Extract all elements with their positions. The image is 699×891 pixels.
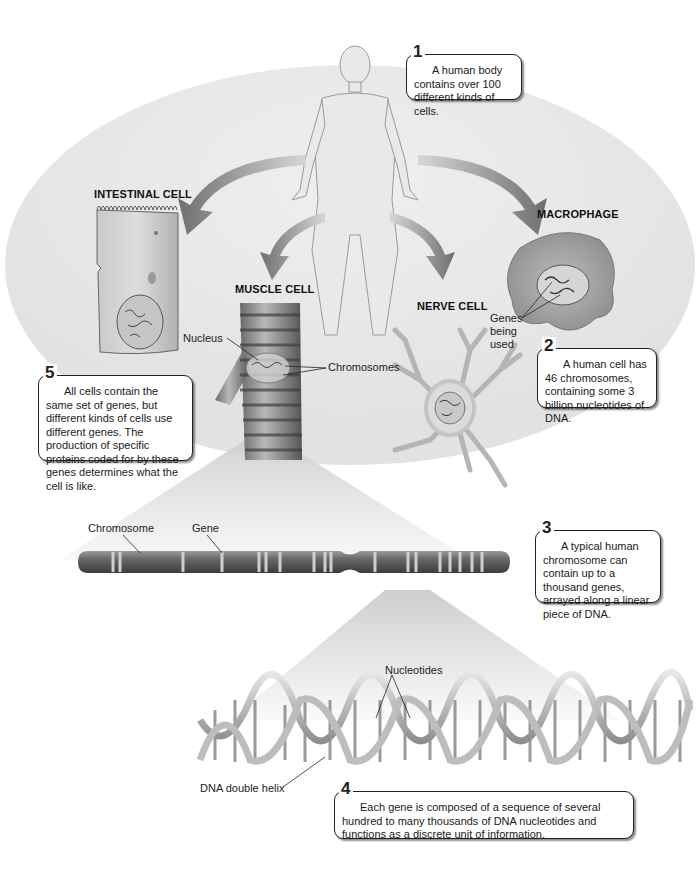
callout-number: 4 xyxy=(339,780,353,797)
genes-being-used-label-2: being xyxy=(490,325,517,338)
callout-2: 2 A human cell has 46 chromosomes, conta… xyxy=(537,348,657,408)
callout-4: 4 Each gene is composed of a sequence of… xyxy=(334,791,634,839)
macrophage-illustration xyxy=(508,233,615,330)
callout-text: A human body contains over 100 different… xyxy=(414,64,514,118)
genes-being-used-label-3: used xyxy=(490,338,514,351)
callout-3: 3 A typical human chromosome can contain… xyxy=(535,530,661,603)
callout-1: 1 A human body contains over 100 differe… xyxy=(406,54,522,100)
intestinal-cell-title: INTESTINAL CELL xyxy=(94,188,192,200)
intestinal-cell-illustration xyxy=(97,206,178,354)
callout-number: 2 xyxy=(542,337,556,354)
nucleus-label: Nucleus xyxy=(183,332,223,345)
nucleotides-label: Nucleotides xyxy=(385,664,442,677)
callout-5: 5 All cells contain the same set of gene… xyxy=(38,375,193,461)
genes-being-used-label-1: Genes xyxy=(490,312,522,325)
callout-text: A human cell has 46 chromosomes, contain… xyxy=(545,358,649,426)
dna-double-helix-label: DNA double helix xyxy=(200,782,284,795)
muscle-cell-title: MUSCLE CELL xyxy=(235,283,314,295)
macrophage-title: MACROPHAGE xyxy=(537,208,619,220)
callout-number: 1 xyxy=(411,43,425,60)
chromosome-label: Chromosome xyxy=(88,522,154,535)
callout-text: A typical human chromosome can contain u… xyxy=(543,540,653,621)
chromosomes-label: Chromosomes xyxy=(328,361,400,374)
gene-label: Gene xyxy=(192,522,219,535)
callout-number: 5 xyxy=(43,364,57,381)
callout-text: All cells contain the same set of genes,… xyxy=(46,385,185,493)
callout-text: Each gene is composed of a sequence of s… xyxy=(342,801,626,842)
callout-number: 3 xyxy=(540,519,554,536)
nerve-cell-title: NERVE CELL xyxy=(417,300,487,312)
